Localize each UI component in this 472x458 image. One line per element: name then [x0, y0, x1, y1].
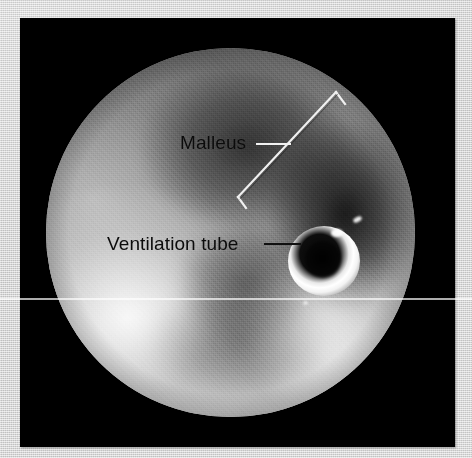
ventilation-tube-leader-line	[264, 243, 301, 245]
ventilation-tube-lumen	[305, 241, 341, 277]
specular-highlight-icon	[331, 229, 343, 237]
figure-root: Malleus Ventilation tube	[0, 0, 472, 458]
ventilation-tube	[288, 226, 360, 296]
malleus-label: Malleus	[180, 133, 246, 152]
specular-fleck-lower-icon	[303, 301, 308, 305]
malleus-leader-line	[256, 143, 291, 145]
ventilation-tube-label: Ventilation tube	[107, 234, 239, 253]
